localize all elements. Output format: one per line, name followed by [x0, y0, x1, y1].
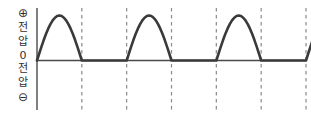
half-wave-rectifier-waveform-figure: ⊕ 전 압 0 전 압 ⊖	[0, 0, 311, 125]
period-marker-group	[82, 8, 306, 110]
waveform-plot-area	[0, 0, 311, 125]
waveform-curve	[37, 16, 311, 61]
